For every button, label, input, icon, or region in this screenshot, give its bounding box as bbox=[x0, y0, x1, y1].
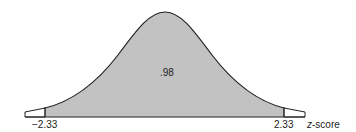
axis-label: z-score bbox=[307, 119, 340, 130]
shaded-region bbox=[45, 12, 284, 117]
left-bound-label: −2.33 bbox=[32, 119, 57, 130]
center-area-label: .98 bbox=[160, 67, 174, 78]
left-tail bbox=[25, 108, 45, 117]
axis-label-rest: -score bbox=[312, 119, 340, 130]
normal-curve-diagram bbox=[0, 0, 356, 132]
right-tail bbox=[284, 108, 305, 117]
right-bound-label: 2.33 bbox=[274, 119, 293, 130]
